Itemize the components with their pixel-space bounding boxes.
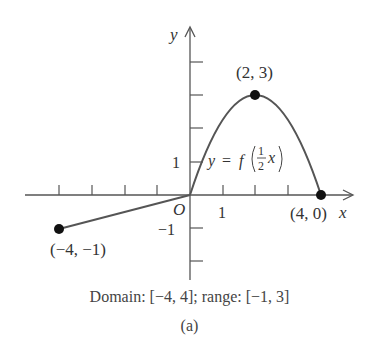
parabola-curve — [190, 95, 321, 195]
svg-text:2: 2 — [258, 159, 264, 173]
caption: Domain: [−4, 4]; range: [−1, 3] — [0, 288, 379, 306]
svg-text:y: y — [206, 152, 216, 170]
svg-text:=: = — [222, 152, 231, 169]
svg-text:f: f — [239, 152, 246, 170]
subcaption: (a) — [0, 317, 379, 335]
point-label-neg4-neg1: (−4, −1) — [50, 240, 106, 259]
svg-text:1: 1 — [258, 144, 264, 158]
point-2-3 — [250, 90, 260, 100]
point-label-4-0: (4, 0) — [290, 204, 327, 223]
svg-text:x: x — [267, 149, 275, 166]
curve-label: y = f 1 2 x — [206, 144, 282, 173]
y-axis-label: y — [168, 25, 178, 44]
origin-label: O — [173, 200, 185, 219]
y-tick-label-neg1: −1 — [158, 221, 175, 238]
y-tick-label-1: 1 — [172, 154, 180, 171]
point-neg4-neg1 — [54, 224, 64, 234]
x-axis-label: x — [338, 203, 347, 222]
point-4-0 — [316, 190, 326, 200]
x-tick-label-1: 1 — [218, 204, 226, 221]
x-ticks — [59, 185, 288, 195]
point-label-2-3: (2, 3) — [236, 63, 273, 82]
